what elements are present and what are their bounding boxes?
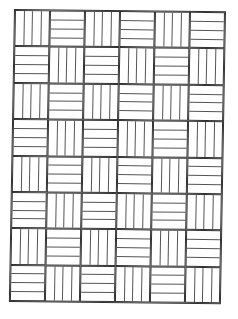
weave-strip [15,55,48,64]
weave-strip [85,74,118,83]
weave-strip [212,195,221,229]
weave-cell-vertical [117,120,153,157]
weave-strip [151,275,184,284]
weave-strip [152,220,185,229]
weave-cell-horizontal [47,156,83,193]
weave-strip [155,74,188,83]
weave-strip [84,129,117,138]
weave-strip [12,210,45,219]
weave-strip [50,37,83,46]
weave-cell-vertical [116,193,152,230]
weave-cell-vertical [151,230,187,267]
weave-strip [176,231,185,265]
weave-strip [154,138,187,147]
weave-cell-vertical [46,192,82,229]
weave-cell-vertical [187,121,223,158]
weave-strip [121,20,154,29]
weave-strip [179,85,188,119]
weave-strip [119,110,152,119]
weave-strip [121,29,154,38]
weave-cell-horizontal [82,120,118,157]
weave-cell-vertical [82,156,118,193]
weave-strip [37,157,46,191]
weave-strip [118,183,151,192]
weave-cell-horizontal [116,229,152,266]
weave-strip [82,219,115,228]
weave-cell-horizontal [152,121,188,158]
weave-cell-vertical [12,156,48,193]
weave-strip [191,21,224,30]
weave-strip [152,202,185,211]
weave-strip [74,48,83,82]
weave-cell-horizontal [118,84,154,121]
weave-strip [106,230,115,264]
weave-strip [39,84,48,118]
weave-strip [189,102,222,111]
weave-strip [48,165,81,174]
weave-strip [70,266,79,300]
weave-strip [48,174,81,183]
weave-strip [191,30,224,39]
weave-strip [155,57,188,66]
weave-strip [81,283,114,292]
weave-strip [144,49,153,83]
weave-strip [155,66,188,75]
weave-cell-vertical [13,83,49,120]
weave-strip [120,38,153,47]
weave-strip [187,239,220,248]
weave-strip [109,85,118,119]
weave-strip [49,101,82,110]
weave-strip [84,138,117,147]
weave-cell-horizontal [12,119,48,156]
weave-strip [189,93,222,102]
weave-strip [110,12,119,46]
weave-cell-vertical [47,120,83,157]
weave-cell-horizontal [81,193,117,230]
weave-strip [210,268,219,302]
weave-cell-horizontal [188,85,224,122]
weave-strip [152,211,185,220]
weave-strip [15,73,48,82]
weave-strip [13,146,46,155]
weave-cell-horizontal [117,157,153,194]
weave-cell-vertical [152,157,188,194]
weave-strip [12,201,45,210]
weave-strip [180,13,189,47]
weave-strip [188,166,221,175]
weave-strip [151,293,184,302]
weave-cell-horizontal [14,46,50,83]
weave-strip [117,256,150,265]
weave-strip [15,64,48,73]
weave-cell-horizontal [150,266,186,303]
weave-cell-vertical [119,47,155,84]
weave-cell-horizontal [80,265,116,302]
weave-cell-horizontal [48,83,84,120]
weave-strip [82,201,115,210]
weave-cell-horizontal [186,230,222,267]
weave-strip [14,128,47,137]
weave-cell-vertical [11,228,47,265]
weave-strip [119,102,152,111]
weave-strip [12,218,45,227]
weave-strip [143,122,152,156]
weave-strip [72,194,81,228]
weave-strip [49,110,82,119]
weave-strip [117,238,150,247]
weave-cell-vertical [84,11,120,48]
weave-cell-horizontal [187,157,223,194]
weave-cell-vertical [153,84,189,121]
weave-strip [47,246,80,255]
weave-cell-vertical [189,48,225,85]
weave-strip [81,274,114,283]
weave-strip [48,182,81,191]
weave-cell-vertical [49,47,85,84]
weave-strip [85,65,118,74]
weave-strip [81,292,114,301]
weave-strip [11,282,44,291]
weave-cell-horizontal [11,192,47,229]
weave-strip [118,174,151,183]
basketweave-grid [9,9,226,304]
weave-strip [73,121,82,155]
weave-strip [85,56,118,65]
weave-cell-vertical [14,10,50,47]
